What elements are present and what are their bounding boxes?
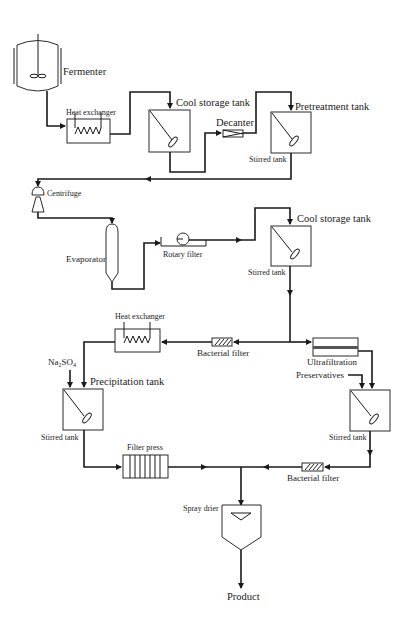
stirred-tank-4-label: Stirred tank [329,433,367,442]
na2so4-label: Na2SO4 [48,357,76,368]
flow-arrow [263,464,269,470]
stirred-tank-1-label: Stirred tank [249,155,287,164]
stirred-tank-4-icon [350,390,390,431]
bacterial-filter-2-label: Bacterial filter [287,473,339,483]
filter-press-label: Filter press [127,443,163,452]
pipe-preservatives-input [348,375,362,388]
process-flow-diagram: Fermenter Heat exchanger Cool storage ta… [0,0,408,631]
filter-press-icon [123,455,168,478]
pretreatment-tank-icon [271,112,311,153]
evaporator-icon [106,224,118,282]
rotary-filter-label: Rotary filter [163,250,203,259]
cool-storage-tank-1-label: Cool storage tank [176,97,251,108]
precipitation-tank-label: Precipitation tank [90,376,165,387]
heat-exchanger-1-label: Heat exchanger [66,108,116,117]
pipe-fermenter-to-hx [47,91,65,126]
centrifuge-icon [32,187,44,212]
stirred-tank-2-label: Stirred tank [248,268,286,277]
heat-exchanger-2-label: Heat exchanger [115,312,165,321]
flow-arrow [287,290,293,296]
pipe-ultrafiltration-to-stirred-tank [358,351,372,388]
cool-storage-tank-1-icon [149,110,190,152]
pretreatment-tank-label: Pretreatment tank [295,101,370,112]
pipe-centrifuge-to-evaporator [38,212,112,223]
flow-arrow [367,450,373,456]
flow-arrow [201,464,207,470]
cool-storage-tank-2-label: Cool storage tank [297,213,372,224]
ultrafiltration-label: Ultrafiltration [307,357,357,367]
spray-drier-label: Spray drier [183,504,219,513]
flow-arrow [236,237,242,243]
heat-exchanger-2-icon [115,322,160,352]
decanter-icon [223,130,243,137]
decanter-label: Decanter [216,117,254,128]
ultrafiltration-icon [313,338,358,356]
fermenter-icon [14,34,61,91]
cool-storage-tank-2-icon [271,226,311,266]
bacterial-filter-1-label: Bacterial filter [197,348,249,358]
fermenter-label: Fermenter [63,66,107,77]
bacterial-filter-2-icon [302,463,323,471]
preservatives-label: Preservatives [296,370,344,380]
spray-drier-icon [222,505,261,550]
pipe-evaporator-to-rotary-filter [112,243,160,289]
bacterial-filter-1-icon [212,338,232,346]
evaporator-label: Evaporator [66,254,106,264]
centrifuge-label: Centrifuge [47,189,82,198]
heat-exchanger-1-icon [67,113,110,143]
precipitation-tank-icon [63,389,103,430]
flow-arrow [145,176,151,182]
pipe-precipitation-to-filter-press [84,430,121,467]
stirred-tank-3-label: Stirred tank [41,433,79,442]
product-label: Product [227,591,260,602]
